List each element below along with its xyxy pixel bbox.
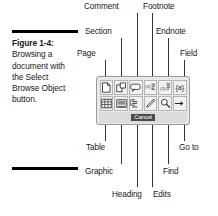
figure-caption-text: Browsing a document with the Select Brow… bbox=[12, 49, 76, 105]
palette-cancel-bar[interactable]: Cancel bbox=[99, 112, 187, 123]
leader-table bbox=[105, 125, 106, 141]
callout-table: Table bbox=[86, 143, 105, 152]
leader-endnote bbox=[168, 38, 169, 76]
caption-rule-top bbox=[12, 30, 78, 33]
find-icon[interactable] bbox=[158, 96, 172, 111]
figure-number: Figure 1-4: bbox=[12, 38, 76, 49]
edits-icon[interactable] bbox=[144, 96, 158, 111]
callout-heading: Heading bbox=[112, 190, 142, 199]
palette-row-1: (1) (1) {a} bbox=[99, 79, 187, 95]
leader-footnote bbox=[152, 13, 153, 76]
cancel-label: Cancel bbox=[131, 114, 154, 121]
callout-edits: Edits bbox=[153, 190, 171, 199]
figure-illustration: Figure 1-4: Browsing a document with the… bbox=[0, 0, 218, 216]
endnote-icon[interactable]: (1) bbox=[158, 80, 172, 95]
caption-rule-bottom bbox=[12, 167, 78, 170]
leader-heading bbox=[137, 125, 138, 187]
figure-caption: Figure 1-4: Browsing a document with the… bbox=[12, 38, 76, 106]
field-icon[interactable]: {a} bbox=[173, 80, 187, 95]
callout-comment: Comment bbox=[84, 2, 119, 11]
callout-endnote: Endnote bbox=[156, 27, 186, 36]
leader-go-to bbox=[184, 125, 185, 141]
field-glyph: {a} bbox=[175, 84, 184, 91]
leader-edits bbox=[152, 125, 153, 187]
comment-icon[interactable] bbox=[129, 80, 143, 95]
callout-page: Page bbox=[77, 49, 96, 58]
callout-go-to: Go to bbox=[179, 143, 199, 152]
leader-comment bbox=[137, 13, 138, 76]
table-icon[interactable] bbox=[100, 96, 114, 111]
leader-find bbox=[168, 125, 169, 164]
page-icon[interactable] bbox=[100, 80, 114, 95]
heading-icon[interactable] bbox=[129, 96, 143, 111]
callout-field: Field bbox=[180, 49, 197, 58]
select-browse-object-palette[interactable]: (1) (1) {a} bbox=[96, 76, 190, 125]
graphic-icon[interactable] bbox=[114, 96, 128, 111]
leader-section bbox=[121, 38, 122, 76]
leader-page bbox=[105, 60, 106, 76]
section-icon[interactable] bbox=[114, 80, 128, 95]
callout-graphic: Graphic bbox=[85, 167, 113, 176]
callout-section: Section bbox=[85, 27, 112, 36]
svg-text:(1): (1) bbox=[145, 84, 151, 89]
svg-text:(1): (1) bbox=[160, 85, 166, 90]
leader-field bbox=[184, 60, 185, 76]
go-to-icon[interactable] bbox=[173, 96, 187, 111]
leader-graphic bbox=[121, 125, 122, 164]
footnote-icon[interactable]: (1) bbox=[144, 80, 158, 95]
palette-row-2 bbox=[99, 95, 187, 111]
callout-find: Find bbox=[163, 167, 179, 176]
callout-footnote: Footnote bbox=[143, 2, 175, 11]
